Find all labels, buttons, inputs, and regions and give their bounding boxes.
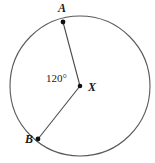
point-label-b: B [25,133,33,145]
point-dot-b [36,137,41,142]
circle-diagram-canvas [0,0,155,163]
point-label-a: A [58,2,66,14]
geometry-figure: A B X 120° [0,0,155,163]
point-dot-x [78,84,83,89]
radius-line-xb [38,86,80,139]
central-angle-label: 120° [46,73,67,84]
point-dot-a [61,20,66,25]
point-label-x: X [88,81,96,93]
